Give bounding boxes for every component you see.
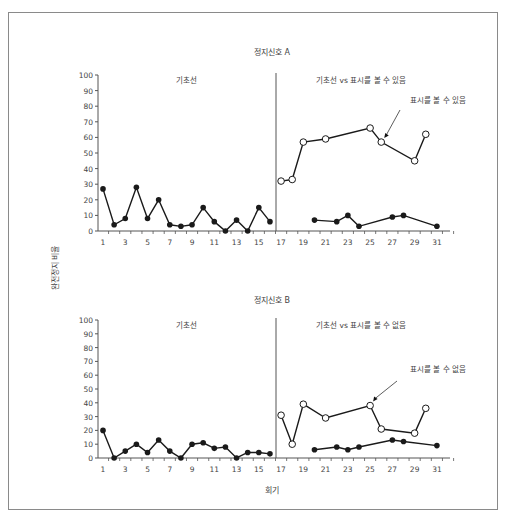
x-tick-label: 5 xyxy=(145,465,150,474)
data-point-filled xyxy=(267,451,273,457)
series-line-filled xyxy=(103,430,270,458)
x-tick-label: 7 xyxy=(167,238,172,247)
data-point-filled xyxy=(390,214,396,220)
data-point-filled xyxy=(334,219,340,225)
data-point-filled xyxy=(256,205,262,211)
x-tick-label: 25 xyxy=(365,238,375,247)
data-point-filled xyxy=(156,197,162,203)
y-tick-label: 80 xyxy=(83,344,93,353)
data-point-open xyxy=(422,131,429,138)
data-point-filled xyxy=(134,441,140,447)
y-tick-label: 90 xyxy=(83,330,93,339)
x-tick-label: 15 xyxy=(254,465,264,474)
y-tick-label: 30 xyxy=(83,413,93,422)
y-tick-label: 60 xyxy=(83,133,93,142)
data-point-filled xyxy=(200,440,206,446)
data-point-open xyxy=(411,158,418,165)
x-tick-label: 25 xyxy=(365,465,375,474)
x-tick-label: 29 xyxy=(410,465,420,474)
x-tick-label: 23 xyxy=(343,465,353,474)
data-point-filled xyxy=(312,447,318,453)
y-tick-label: 40 xyxy=(83,165,93,174)
phase-label-treatment: 기초선 vs 표시를 볼 수 없음 xyxy=(316,321,406,330)
x-tick-label: 13 xyxy=(232,465,242,474)
annotation-label: 표시를 볼 수 없음 xyxy=(410,365,466,374)
data-point-filled xyxy=(256,450,262,456)
data-point-filled xyxy=(345,447,351,453)
x-tick-label: 23 xyxy=(343,238,353,247)
y-tick-label: 80 xyxy=(83,102,93,111)
data-point-filled xyxy=(167,222,173,228)
data-point-filled xyxy=(356,224,362,230)
data-point-filled xyxy=(390,437,396,443)
x-tick-label: 27 xyxy=(388,465,398,474)
chart-title: 정지신호 B xyxy=(254,295,290,305)
data-point-open xyxy=(378,139,385,146)
x-tick-label: 15 xyxy=(254,238,264,247)
y-tick-label: 10 xyxy=(83,211,93,220)
data-point-filled xyxy=(100,428,106,434)
chart-canvas: 정지신호 A0102030405060708090100135791113151… xyxy=(0,0,506,526)
data-point-filled xyxy=(100,186,106,192)
chart-title: 정지신호 A xyxy=(254,47,291,57)
y-tick-label: 90 xyxy=(83,87,93,96)
y-tick-label: 100 xyxy=(79,316,94,325)
data-point-open xyxy=(367,402,374,409)
x-axis-label: 회기 xyxy=(265,486,279,495)
data-point-filled xyxy=(245,450,251,456)
x-tick-label: 11 xyxy=(210,465,220,474)
data-point-filled xyxy=(345,213,351,219)
data-point-open xyxy=(289,441,296,448)
y-tick-label: 50 xyxy=(83,149,93,158)
x-tick-label: 5 xyxy=(145,238,150,247)
y-axis-label: 완전정지 비율 xyxy=(50,246,60,291)
data-point-open xyxy=(322,415,329,422)
data-point-filled xyxy=(189,441,195,447)
data-point-filled xyxy=(234,217,240,223)
x-tick-label: 1 xyxy=(101,238,106,247)
data-point-filled xyxy=(223,444,229,450)
data-point-open xyxy=(378,426,385,433)
y-tick-label: 30 xyxy=(83,180,93,189)
data-point-open xyxy=(278,178,285,185)
x-tick-label: 31 xyxy=(432,465,442,474)
data-point-open xyxy=(411,430,418,437)
x-tick-label: 9 xyxy=(190,465,195,474)
data-point-open xyxy=(322,136,329,143)
x-tick-label: 31 xyxy=(432,238,442,247)
y-tick-label: 0 xyxy=(88,227,93,236)
series-line-filled xyxy=(103,187,270,231)
x-tick-label: 13 xyxy=(232,238,242,247)
data-point-filled xyxy=(434,443,440,449)
data-point-filled xyxy=(111,222,117,228)
data-point-filled xyxy=(178,455,184,461)
data-point-filled xyxy=(212,446,218,452)
data-point-filled xyxy=(134,185,140,191)
data-point-filled xyxy=(178,224,184,230)
data-point-filled xyxy=(267,219,273,225)
x-tick-label: 19 xyxy=(299,238,309,247)
data-point-open xyxy=(278,412,285,419)
data-point-filled xyxy=(312,217,318,223)
data-point-filled xyxy=(122,216,128,222)
y-tick-label: 0 xyxy=(88,454,93,463)
y-tick-label: 60 xyxy=(83,371,93,380)
data-point-filled xyxy=(156,437,162,443)
data-point-open xyxy=(300,401,307,408)
x-tick-label: 19 xyxy=(299,465,309,474)
data-point-open xyxy=(422,405,429,412)
data-point-filled xyxy=(200,205,206,211)
y-tick-label: 10 xyxy=(83,440,93,449)
y-tick-label: 40 xyxy=(83,399,93,408)
data-point-filled xyxy=(223,228,229,234)
y-tick-label: 20 xyxy=(83,196,93,205)
data-point-filled xyxy=(434,224,440,230)
y-tick-label: 100 xyxy=(79,71,94,80)
phase-label-treatment: 기초선 vs 표시를 볼 수 있음 xyxy=(316,76,406,85)
series-line-filled xyxy=(314,440,436,450)
phase-label-baseline: 기초선 xyxy=(176,76,197,85)
data-point-filled xyxy=(145,216,151,222)
x-tick-label: 29 xyxy=(410,238,420,247)
x-tick-label: 9 xyxy=(190,238,195,247)
x-tick-label: 1 xyxy=(101,465,106,474)
